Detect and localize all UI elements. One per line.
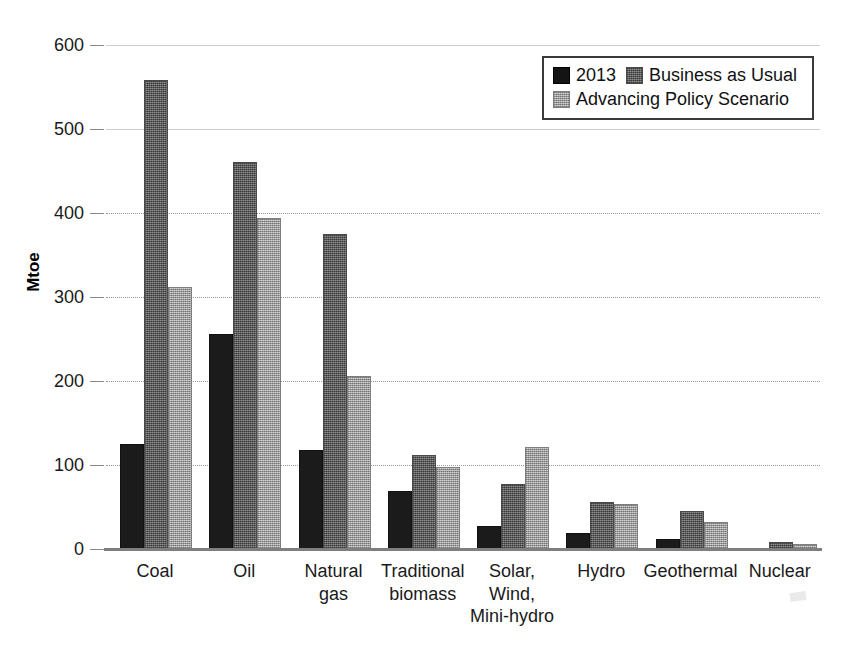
bar: [323, 234, 347, 549]
y-tick-label-400: 400: [36, 204, 84, 222]
chart-legend: 2013Business as UsualAdvancing Policy Sc…: [542, 56, 814, 120]
y-tick-500: [90, 129, 104, 130]
legend-swatch-icon: [626, 67, 643, 84]
x-axis-label: Nuclear: [720, 560, 840, 583]
bar: [388, 491, 412, 549]
bar: [704, 522, 728, 549]
y-tick-label-0: 0: [36, 540, 84, 558]
bar: [412, 455, 436, 549]
legend-entry[interactable]: 2013: [553, 65, 616, 86]
bar: [209, 334, 233, 549]
bar: [233, 162, 257, 549]
legend-entry[interactable]: Advancing Policy Scenario: [553, 89, 789, 110]
legend-row: Advancing Policy Scenario: [553, 89, 804, 110]
y-tick-label-300: 300: [36, 288, 84, 306]
scan-artifact: [789, 591, 806, 602]
bar: [680, 511, 704, 549]
y-tick-label-500: 500: [36, 120, 84, 138]
legend-swatch-icon: [553, 67, 570, 84]
legend-label: Advancing Policy Scenario: [576, 89, 789, 110]
legend-label: 2013: [576, 65, 616, 86]
bar: [168, 287, 192, 549]
plot-area: [106, 45, 820, 549]
bar: [347, 376, 371, 549]
y-tick-label-600: 600: [36, 36, 84, 54]
y-tick-600: [90, 45, 104, 46]
bar: [299, 450, 323, 549]
y-tick-300: [90, 297, 104, 298]
bar-chart: Mtoe 0100200300400500600 CoalOilNatural …: [0, 0, 845, 653]
y-tick-400: [90, 213, 104, 214]
legend-entry[interactable]: Business as Usual: [626, 65, 797, 86]
y-tick-label-200: 200: [36, 372, 84, 390]
bar: [590, 502, 614, 549]
gridline-600: [106, 45, 820, 46]
legend-row: 2013Business as Usual: [553, 65, 804, 86]
x-axis-line: [104, 548, 822, 551]
bar: [566, 533, 590, 549]
bar: [501, 484, 525, 549]
gridline-300: [106, 297, 820, 298]
legend-swatch-icon: [553, 91, 570, 108]
y-tick-200: [90, 381, 104, 382]
y-tick-100: [90, 465, 104, 466]
gridline-400: [106, 213, 820, 214]
bar: [614, 504, 638, 549]
y-axis-tick-labels: 0100200300400500600: [36, 0, 84, 653]
gridline-500: [106, 129, 820, 130]
bar: [477, 526, 501, 549]
y-tick-label-100: 100: [36, 456, 84, 474]
bar: [436, 467, 460, 549]
y-tick-0: [90, 549, 104, 550]
bar: [257, 218, 281, 549]
bar: [144, 80, 168, 549]
bar: [525, 447, 549, 549]
bar: [120, 444, 144, 549]
legend-label: Business as Usual: [649, 65, 797, 86]
